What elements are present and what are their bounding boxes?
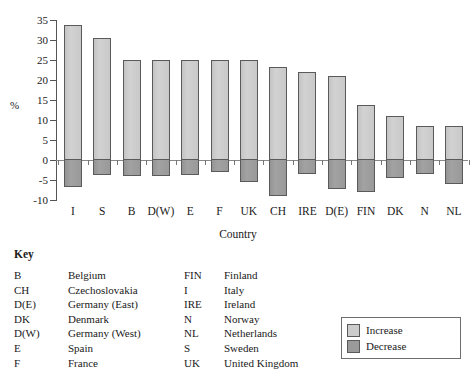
key-row: ESpain <box>14 341 184 356</box>
bar-increase <box>269 67 287 160</box>
bar-decrease <box>93 160 111 175</box>
key-country-name: Netherlands <box>224 326 354 341</box>
key-country-name: Belgium <box>68 268 184 283</box>
key-country-name: Germany (West) <box>68 326 184 341</box>
y-axis-tick <box>50 100 56 101</box>
x-axis-tick <box>469 160 470 165</box>
x-axis-tick <box>146 160 147 165</box>
bar-chart: % 35302520151050-5-10 ISBD(W)EFUKCHIRED(… <box>0 0 476 222</box>
legend-swatch-decrease <box>347 340 360 353</box>
legend-label: Decrease <box>366 340 406 352</box>
x-axis-category-label: UK <box>234 205 263 217</box>
x-axis-category-label: E <box>176 205 205 217</box>
bar-increase <box>386 116 404 160</box>
key-row: NNorway <box>184 312 354 327</box>
y-axis-tick-label: 20 <box>20 75 48 86</box>
bar-decrease <box>64 160 82 187</box>
x-axis-tick <box>351 160 352 165</box>
key-country-name: Germany (East) <box>68 297 184 312</box>
chart-page: % 35302520151050-5-10 ISBD(W)EFUKCHIRED(… <box>0 0 476 380</box>
x-axis-category-label: IRE <box>293 205 322 217</box>
y-axis-tick-label: 15 <box>20 95 48 106</box>
x-axis-tick <box>263 160 264 165</box>
bar-increase <box>93 38 111 160</box>
y-axis-tick-label: 0 <box>20 155 48 166</box>
key-abbreviation: DK <box>14 312 68 327</box>
key-row: BBelgium <box>14 268 184 283</box>
key-abbreviation: CH <box>14 283 68 298</box>
key-heading: Key <box>14 248 354 260</box>
x-axis-category-label: DK <box>381 205 410 217</box>
y-axis-tick-label: 25 <box>20 55 48 66</box>
x-axis-title: Country <box>0 228 476 240</box>
key-block: Key BBelgiumCHCzechoslovakiaD(E)Germany … <box>14 248 354 370</box>
y-axis-tick <box>50 40 56 41</box>
key-abbreviation: N <box>184 312 224 327</box>
key-country-name: Czechoslovakia <box>68 283 184 298</box>
bar-increase <box>181 60 199 160</box>
y-axis-title: % <box>10 100 19 111</box>
bar-increase <box>416 126 434 160</box>
x-axis-category-label: CH <box>263 205 292 217</box>
key-row: D(E)Germany (East) <box>14 297 184 312</box>
key-row: FFrance <box>14 356 184 371</box>
bar-increase <box>123 60 141 160</box>
bar-decrease <box>328 160 346 189</box>
x-axis-category-label: B <box>117 205 146 217</box>
y-axis-tick <box>50 80 56 81</box>
key-row: DKDenmark <box>14 312 184 327</box>
bar-decrease <box>269 160 287 196</box>
x-axis-tick <box>88 160 89 165</box>
x-axis-tick <box>234 160 235 165</box>
y-axis-tick <box>50 120 56 121</box>
key-column-left: BBelgiumCHCzechoslovakiaD(E)Germany (Eas… <box>14 268 184 370</box>
key-row: UKUnited Kingdom <box>184 356 354 371</box>
key-row: IItaly <box>184 283 354 298</box>
key-abbreviation: IRE <box>184 297 224 312</box>
key-abbreviation: E <box>14 341 68 356</box>
key-abbreviation: F <box>14 356 68 371</box>
x-axis-tick <box>176 160 177 165</box>
x-axis-category-label: I <box>58 205 87 217</box>
y-axis-tick <box>50 20 56 21</box>
y-axis-tick <box>50 60 56 61</box>
bar-decrease <box>211 160 229 172</box>
x-axis-tick <box>381 160 382 165</box>
x-axis-category-label: D(W) <box>146 205 175 217</box>
bar-decrease <box>123 160 141 176</box>
x-axis-tick <box>410 160 411 165</box>
bar-decrease <box>445 160 463 184</box>
key-country-name: France <box>68 356 184 371</box>
key-country-name: Norway <box>224 312 354 327</box>
x-axis-category-label: FIN <box>351 205 380 217</box>
bar-decrease <box>181 160 199 175</box>
bar-decrease <box>240 160 258 182</box>
legend-swatch-increase <box>347 324 360 337</box>
chart-legend: IncreaseDecrease <box>341 317 461 359</box>
key-abbreviation: FIN <box>184 268 224 283</box>
key-country-name: Sweden <box>224 341 354 356</box>
key-columns: BBelgiumCHCzechoslovakiaD(E)Germany (Eas… <box>14 268 354 370</box>
key-country-name: United Kingdom <box>224 356 354 371</box>
key-country-name: Ireland <box>224 297 354 312</box>
key-country-name: Finland <box>224 268 354 283</box>
x-axis-tick <box>439 160 440 165</box>
x-axis-tick <box>293 160 294 165</box>
key-abbreviation: S <box>184 341 224 356</box>
y-axis-tick-label: 5 <box>20 135 48 146</box>
y-axis-tick <box>50 160 56 161</box>
key-abbreviation: D(W) <box>14 326 68 341</box>
bar-decrease <box>416 160 434 174</box>
y-axis-tick-label: 35 <box>20 15 48 26</box>
x-axis-category-label: D(E) <box>322 205 351 217</box>
key-abbreviation: NL <box>184 326 224 341</box>
y-axis-tick <box>50 180 56 181</box>
x-axis-category-label: N <box>410 205 439 217</box>
bar-increase <box>357 105 375 160</box>
key-column-right: FINFinlandIItalyIREIrelandNNorwayNLNethe… <box>184 268 354 370</box>
key-country-name: Italy <box>224 283 354 298</box>
legend-label: Increase <box>366 324 403 336</box>
y-axis-tick <box>50 200 56 201</box>
x-axis-category-label: S <box>88 205 117 217</box>
bar-decrease <box>152 160 170 176</box>
